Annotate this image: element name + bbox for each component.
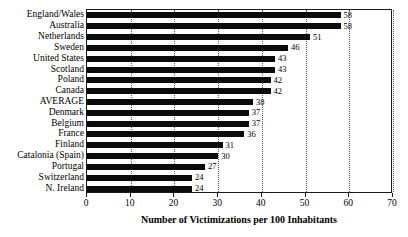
x-tick-0 [86,193,87,197]
category-label: Finland [55,139,84,149]
x-tick-10 [130,193,131,197]
bar-value-label: 36 [247,130,256,139]
x-axis-line [86,192,392,193]
bar [87,153,218,159]
category-label: France [58,128,84,138]
x-axis-title: Number of Victimizations per 100 Inhabit… [86,214,392,225]
plot-area: 5858514643434242383737363130272424 [86,9,392,193]
bar [87,88,271,94]
bar [87,67,275,73]
gridline-60 [349,10,350,192]
bar-value-label: 37 [252,119,261,128]
x-tick-60 [348,193,349,197]
bar [87,175,192,181]
x-tick-label: 10 [125,198,135,209]
bar-value-label: 58 [344,22,353,31]
category-label: Sweden [54,42,84,52]
plot-inner: 5858514643434242383737363130272424 [87,10,391,192]
bar-value-label: 51 [313,33,322,42]
category-label: Belgium [51,118,84,128]
bar [87,110,249,116]
bar [87,77,271,83]
bar-value-label: 42 [274,87,283,96]
x-tick-label: 60 [344,198,354,209]
category-label: Switzerland [39,172,84,182]
x-tick-label: 50 [300,198,310,209]
bar-value-label: 43 [278,54,287,63]
bar-value-label: 58 [344,11,353,20]
category-label: England/Wales [27,9,84,19]
bar [87,34,310,40]
category-axis: England/WalesAustraliaNetherlandsSwedenU… [0,9,86,193]
category-label: Australia [49,20,84,30]
bar-value-label: 24 [195,173,204,182]
x-tick-label: 40 [256,198,266,209]
bar [87,12,341,18]
bar [87,142,223,148]
bar-chart: England/WalesAustraliaNetherlandsSwedenU… [0,0,408,237]
category-label: N. Ireland [45,183,84,193]
category-label: Scotland [51,64,84,74]
x-tick-label: 70 [387,198,397,209]
bar-value-label: 37 [252,108,261,117]
category-label: Poland [58,74,84,84]
bar-value-label: 27 [208,162,217,171]
bar-value-label: 46 [291,43,300,52]
bar [87,56,275,62]
x-tick-70 [392,193,393,197]
gridline-70 [393,10,394,192]
x-tick-30 [217,193,218,197]
bar-value-label: 30 [221,152,230,161]
category-label: AVERAGE [40,96,84,106]
bar [87,45,288,51]
bar-value-label: 38 [256,98,265,107]
bar-value-label: 43 [278,65,287,74]
category-label: Portugal [52,161,84,171]
category-label: Denmark [49,107,84,117]
x-tick-40 [261,193,262,197]
bar [87,121,249,127]
x-tick-20 [173,193,174,197]
x-tick-label: 20 [169,198,179,209]
category-label: United States [33,53,84,63]
bar [87,23,341,29]
category-label: Canada [56,85,85,95]
bar [87,186,192,192]
x-tick-label: 30 [212,198,222,209]
x-tick-label: 0 [84,198,89,209]
bar [87,131,244,137]
bar-value-label: 31 [226,141,235,150]
x-tick-50 [305,193,306,197]
category-label: Netherlands [38,31,84,41]
bar-value-label: 42 [274,76,283,85]
bar [87,164,205,170]
bar [87,99,253,105]
category-label: Catalonia (Spain) [17,150,84,160]
